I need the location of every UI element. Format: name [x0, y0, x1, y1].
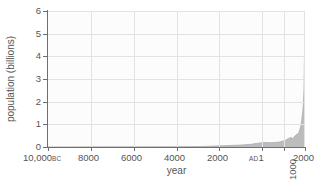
plot-area [48, 11, 305, 147]
x-tick-label-10000bc-era: BC [52, 155, 61, 162]
gridline-x-2000bc [219, 11, 220, 147]
x-tick-mark-6000bc [134, 147, 135, 151]
y-tick-label-3: 3 [27, 74, 41, 84]
x-tick-label-ad2000: 2000 [293, 153, 314, 163]
x-tick-label-ad1-text: 1 [258, 152, 263, 163]
gridline-x-8000bc [91, 11, 92, 147]
y-tick-label-5: 5 [27, 29, 41, 39]
x-tick-label-10000bc: 10,000BC [23, 153, 62, 164]
x-tick-label-10000bc-text: 10,000 [23, 152, 52, 163]
y-tick-mark-5 [43, 34, 47, 35]
gridline-x-ad1000 [284, 11, 285, 147]
x-tick-label-8000bc: 8000 [78, 153, 99, 163]
y-axis-title: population (billions) [6, 14, 16, 144]
gridline-x-ad1 [262, 11, 263, 147]
x-tick-label-ad1: AD1 [249, 153, 264, 164]
x-tick-mark-ad1000 [284, 147, 285, 151]
y-tick-mark-2 [43, 102, 47, 103]
x-tick-label-6000bc: 6000 [121, 153, 142, 163]
y-tick-label-1: 1 [27, 119, 41, 129]
y-tick-label-6: 6 [27, 6, 41, 16]
y-tick-label-0: 0 [27, 142, 41, 152]
x-tick-label-2000bc: 2000 [207, 153, 228, 163]
x-tick-label-4000bc: 4000 [164, 153, 185, 163]
x-tick-mark-10000bc [48, 147, 49, 151]
x-tick-mark-ad2000 [305, 147, 306, 151]
x-tick-mark-8000bc [91, 147, 92, 151]
y-tick-mark-6 [43, 11, 47, 12]
x-axis-title: year [48, 166, 305, 176]
gridline-x-6000bc [134, 11, 135, 147]
y-tick-mark-3 [43, 79, 47, 80]
x-tick-mark-4000bc [177, 147, 178, 151]
x-tick-mark-ad1 [262, 147, 263, 151]
x-tick-mark-2000bc [219, 147, 220, 151]
y-axis-line [47, 10, 48, 148]
population-history-chart: 6 5 4 3 2 1 0 10,000BC 8000 6000 4000 20… [0, 0, 322, 189]
y-tick-mark-1 [43, 124, 47, 125]
gridline-x-4000bc [177, 11, 178, 147]
y-tick-mark-0 [43, 147, 47, 148]
y-tick-label-4: 4 [27, 51, 41, 61]
gridline-x-ad2000 [304, 11, 305, 147]
y-tick-mark-4 [43, 56, 47, 57]
y-tick-label-2: 2 [27, 97, 41, 107]
